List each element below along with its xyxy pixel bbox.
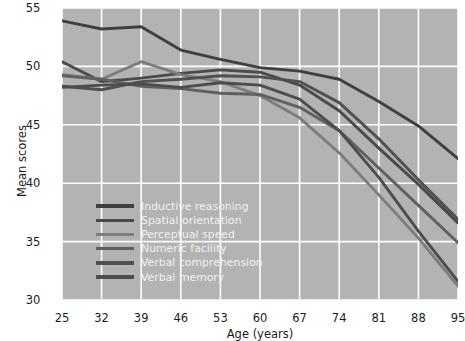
legend-item-label: Verbal memory xyxy=(141,271,224,284)
x-tick-label: 25 xyxy=(55,311,70,325)
legend-item-label: Spatial orientation xyxy=(141,214,242,227)
legend-item[interactable]: Numeric facility xyxy=(96,242,263,256)
x-tick-label: 88 xyxy=(411,311,426,325)
legend-color-swatch xyxy=(96,233,134,236)
legend-item-label: Perceptual speed xyxy=(141,228,235,241)
legend-item[interactable]: Verbal memory xyxy=(96,270,263,284)
legend: Inductive reasoningSpatial orientationPe… xyxy=(96,199,263,284)
x-tick-label: 67 xyxy=(292,311,307,325)
legend-item[interactable]: Spatial orientation xyxy=(96,213,263,227)
legend-color-swatch xyxy=(96,219,134,222)
y-axis-title: Mean scores xyxy=(15,101,29,221)
x-tick-label: 81 xyxy=(371,311,386,325)
legend-color-swatch xyxy=(96,204,134,207)
x-tick-label: 74 xyxy=(332,311,347,325)
x-tick-label: 46 xyxy=(173,311,188,325)
legend-color-swatch xyxy=(96,261,134,264)
legend-item-label: Verbal comprehension xyxy=(141,256,263,269)
legend-color-swatch xyxy=(96,247,134,250)
legend-item-label: Inductive reasoning xyxy=(141,200,249,213)
x-tick-label: 32 xyxy=(94,311,109,325)
x-tick-label: 39 xyxy=(134,311,149,325)
legend-item[interactable]: Verbal comprehension xyxy=(96,256,263,270)
x-tick-label: 95 xyxy=(451,311,465,325)
legend-item[interactable]: Perceptual speed xyxy=(96,227,263,241)
x-axis-title: Age (years) xyxy=(62,327,458,341)
legend-item-label: Numeric facility xyxy=(141,242,227,255)
legend-color-swatch xyxy=(96,275,134,278)
legend-item[interactable]: Inductive reasoning xyxy=(96,199,263,213)
x-tick-label: 60 xyxy=(253,311,268,325)
x-tick-label: 53 xyxy=(213,311,228,325)
